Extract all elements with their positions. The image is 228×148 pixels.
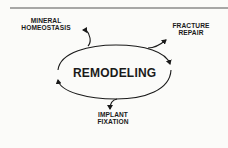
node-line: HOMEOSTASIS — [10, 24, 82, 31]
node-mineral-homeostasis: MINERAL HOMEOSTASIS — [10, 17, 82, 32]
node-implant-fixation: IMPLANT FIXATION — [88, 111, 138, 126]
node-fracture-repair: FRACTURE REPAIR — [164, 22, 218, 37]
center-label-remodeling: REMODELING — [73, 66, 156, 80]
node-line: IMPLANT — [88, 111, 138, 118]
node-line: REPAIR — [164, 29, 218, 36]
arrow-to-mineral-homeostasis — [83, 30, 90, 46]
node-line: FRACTURE — [164, 22, 218, 29]
node-line: FIXATION — [88, 118, 138, 125]
arrow-to-fracture-repair — [148, 40, 166, 48]
node-line: MINERAL — [10, 17, 82, 24]
arrow-to-implant-fixation — [110, 99, 117, 109]
